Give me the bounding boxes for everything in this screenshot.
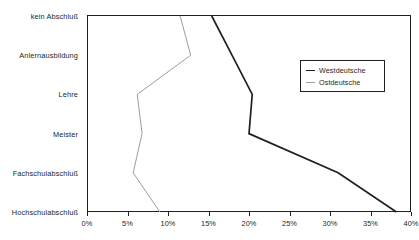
chart-container: kein AbschlußAnlernausbildungLehreMeiste… [0,0,419,240]
legend-swatch-ostdeutsche [306,82,315,83]
chart-legend: Westdeutsche Ostdeutsche [300,60,385,92]
legend-swatch-westdeutsche [306,70,315,71]
series-line-westdeutsche [212,16,397,212]
legend-entry-westdeutsche: Westdeutsche [306,65,384,76]
series-line-ostdeutsche [133,16,191,212]
data-series-layer [0,0,419,240]
legend-label-ostdeutsche: Ostdeutsche [319,78,360,87]
legend-label-westdeutsche: Westdeutsche [319,66,366,75]
legend-entry-ostdeutsche: Ostdeutsche [306,77,384,88]
